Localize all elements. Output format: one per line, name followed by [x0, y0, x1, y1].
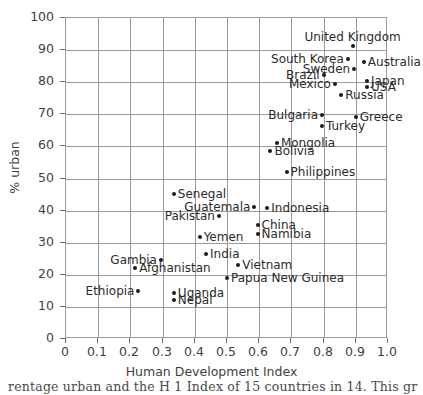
- data-point: [320, 113, 324, 117]
- data-point: [172, 192, 176, 196]
- gridline-horizontal: [66, 307, 386, 308]
- y-tick-label: 60: [8, 139, 54, 152]
- data-point: [268, 149, 272, 153]
- data-point: [198, 235, 202, 239]
- data-point-label: Vietnam: [242, 259, 292, 271]
- data-point-label: Namibia: [262, 228, 312, 240]
- data-point: [362, 60, 366, 64]
- data-point: [351, 44, 355, 48]
- scatter-plot-figure: % urban 0102030405060708090100 00.10.20.…: [0, 0, 423, 395]
- data-point: [285, 170, 289, 174]
- data-point: [265, 206, 269, 210]
- data-point: [333, 82, 337, 86]
- data-point-label: Greece: [360, 111, 403, 123]
- data-point: [339, 93, 343, 97]
- data-point: [354, 115, 358, 119]
- gridline-horizontal: [66, 146, 386, 147]
- y-tick-label: 80: [8, 75, 54, 88]
- data-point-label: United Kingdom: [304, 31, 400, 43]
- y-tick-label: 0: [8, 332, 54, 345]
- data-point-label: Philippines: [291, 166, 356, 178]
- y-tick-label: 70: [8, 107, 54, 120]
- gridline-vertical: [356, 18, 357, 337]
- data-point-label: Bolivia: [274, 145, 314, 157]
- data-point: [256, 232, 260, 236]
- gridline-vertical: [163, 18, 164, 337]
- data-point-label: India: [210, 248, 239, 260]
- y-tick-label: 30: [8, 236, 54, 249]
- x-tick-mark: [355, 338, 356, 343]
- x-tick-mark: [194, 338, 195, 343]
- data-point: [236, 263, 240, 267]
- data-point: [204, 252, 208, 256]
- y-tick-label: 20: [8, 268, 54, 281]
- gridline-horizontal: [66, 179, 386, 180]
- x-tick-mark: [387, 338, 388, 343]
- data-point-label: Turkey: [326, 120, 365, 132]
- data-point: [346, 57, 350, 61]
- data-point-label: Afghanistan: [139, 262, 210, 274]
- x-tick-mark: [162, 338, 163, 343]
- data-point: [217, 214, 221, 218]
- data-point-label: Bulgaria: [268, 109, 318, 121]
- data-point-label: Yemen: [204, 231, 244, 243]
- gridline-horizontal: [66, 82, 386, 83]
- data-point-label: Australia: [368, 56, 421, 68]
- data-point-label: Mexico: [289, 78, 331, 90]
- gridline-vertical: [259, 18, 260, 337]
- x-tick-mark: [323, 338, 324, 343]
- y-tick-label: 40: [8, 204, 54, 217]
- data-point-label: Pakistan: [165, 210, 215, 222]
- gridline-horizontal: [66, 114, 386, 115]
- data-point-label: Indonesia: [271, 202, 329, 214]
- data-point-label: Papua New Guinea: [231, 272, 344, 284]
- plot-area: United KingdomSouth KoreaAustraliaSweden…: [65, 17, 387, 338]
- x-tick-mark: [97, 338, 98, 343]
- y-tick-label: 50: [8, 172, 54, 185]
- data-point-label: Senegal: [178, 188, 226, 200]
- y-axis-title: % urban: [7, 118, 22, 218]
- caption-strip: rentage urban and the H 1 Index of 15 co…: [0, 381, 423, 395]
- data-point: [172, 298, 176, 302]
- data-point: [252, 205, 256, 209]
- x-axis-title: Human Development Index: [0, 364, 423, 379]
- x-tick-label: 1.0: [367, 346, 407, 359]
- data-point-label: Nepal: [178, 294, 213, 306]
- y-tick-label: 10: [8, 300, 54, 313]
- gridline-vertical: [227, 18, 228, 337]
- x-tick-mark: [290, 338, 291, 343]
- x-tick-mark: [129, 338, 130, 343]
- x-tick-mark: [226, 338, 227, 343]
- x-tick-mark: [65, 338, 66, 343]
- data-point: [133, 266, 137, 270]
- data-point: [136, 289, 140, 293]
- data-point: [225, 276, 229, 280]
- data-point-label: Ethiopia: [86, 285, 135, 297]
- y-tick-label: 100: [8, 11, 54, 24]
- x-tick-mark: [258, 338, 259, 343]
- caption-text: rentage urban and the H 1 Index of 15 co…: [8, 381, 417, 394]
- data-point: [172, 291, 176, 295]
- y-tick-label: 90: [8, 43, 54, 56]
- data-point-label: Russia: [345, 89, 384, 101]
